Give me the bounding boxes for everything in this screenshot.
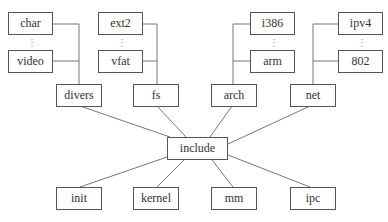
ellipsis-icon: ⋮: [357, 38, 365, 48]
node-char: char: [8, 12, 53, 35]
node-arch: arch: [211, 84, 257, 107]
node-include: include: [167, 137, 228, 160]
ellipsis-icon: ⋮: [27, 38, 35, 48]
node-init: init: [56, 187, 102, 210]
ellipsis-icon: ⋮: [269, 38, 277, 48]
node-fs: fs: [133, 84, 179, 107]
node-vfat: vfat: [98, 50, 143, 73]
node-i386: i386: [250, 12, 295, 35]
node-net: net: [290, 84, 336, 107]
ellipsis-icon: ⋮: [117, 38, 125, 48]
node-ipv4: ipv4: [338, 12, 383, 35]
node-ext2: ext2: [98, 12, 143, 35]
node-kernel: kernel: [133, 187, 179, 210]
node-ipc: ipc: [290, 187, 336, 210]
node-802: 802: [338, 50, 383, 73]
node-divers: divers: [56, 84, 102, 107]
node-video: video: [8, 50, 53, 73]
node-arm: arm: [250, 50, 295, 73]
node-mm: mm: [211, 187, 257, 210]
